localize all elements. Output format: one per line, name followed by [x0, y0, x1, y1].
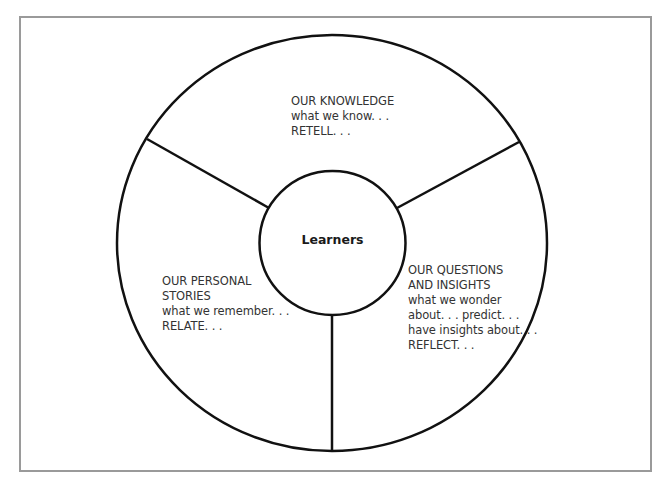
segment-label-knowledge: OUR KNOWLEDGE what we know. . . RETELL. …: [291, 94, 394, 139]
segment-line: OUR QUESTIONS: [408, 263, 537, 278]
segment-line: REFLECT. . .: [408, 338, 537, 353]
segment-line: have insights about. . .: [408, 323, 537, 338]
segment-line: OUR KNOWLEDGE: [291, 94, 394, 109]
segment-label-personal-stories: OUR PERSONAL STORIES what we remember. .…: [162, 274, 289, 334]
center-label-learners: Learners: [259, 232, 406, 247]
spoke-left: [147, 139, 269, 208]
segment-line: STORIES: [162, 289, 289, 304]
segment-label-questions-insights: OUR QUESTIONS AND INSIGHTS what we wonde…: [408, 263, 537, 353]
segment-line: what we wonder: [408, 293, 537, 308]
segment-line: about. . . predict. . .: [408, 308, 537, 323]
segment-line: what we remember. . .: [162, 304, 289, 319]
segment-line: RELATE. . .: [162, 319, 289, 334]
segment-line: what we know. . .: [291, 109, 394, 124]
segment-line: AND INSIGHTS: [408, 278, 537, 293]
spoke-right: [397, 142, 519, 208]
segment-line: OUR PERSONAL: [162, 274, 289, 289]
segment-line: RETELL. . .: [291, 124, 394, 139]
